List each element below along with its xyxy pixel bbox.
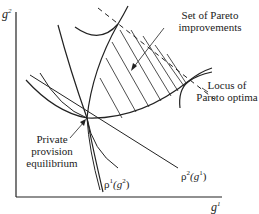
- indifference-curve-upper-right: [87, 6, 128, 118]
- x-axis-label: g1: [211, 201, 221, 213]
- pareto-set-label: Set of Pareto improvements: [165, 9, 255, 33]
- rho2-label: ρ2(g1): [181, 170, 206, 182]
- equilibrium-label: Private provision equilibrium: [22, 133, 82, 169]
- y-axis-label: g2: [2, 8, 12, 20]
- pareto-diagram: g2 g1 Set of Pareto improvements Locus o…: [0, 0, 259, 214]
- rho1-label: ρ1(g2): [104, 178, 129, 190]
- locus-label: Locus of Pareto optima: [195, 79, 259, 103]
- indifference-curve-top: [75, 24, 118, 35]
